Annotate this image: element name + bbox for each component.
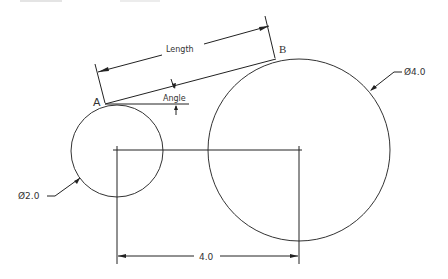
- large-diameter-leader: [370, 72, 402, 91]
- small-diameter-leader: [47, 178, 80, 196]
- large-diameter-label: Ø4.0: [404, 67, 426, 77]
- length-dimension: [95, 16, 275, 103]
- tangent-line: [105, 59, 276, 104]
- tangent-circles-drawing: Length Angle A B Ø4.0 Ø2.0 4.0: [0, 0, 448, 279]
- center-distance-label: 4.0: [199, 252, 214, 262]
- length-label: Length: [166, 45, 194, 54]
- point-b-label: B: [279, 43, 286, 55]
- center-lines: [113, 146, 302, 264]
- point-a-label: A: [93, 96, 101, 109]
- small-diameter-label: Ø2.0: [18, 191, 40, 201]
- angle-label: Angle: [163, 94, 186, 103]
